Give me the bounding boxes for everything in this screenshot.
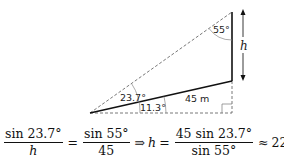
right-angle-marker	[222, 104, 232, 113]
side-length-label: 45 m	[185, 93, 209, 104]
rhs-numerator: sin 55°	[83, 127, 130, 143]
dashed-sightline	[90, 12, 232, 113]
lhs-denominator: h	[29, 143, 37, 158]
result-denominator: sin 55°	[192, 143, 237, 158]
result-numerator: 45 sin 23.7°	[175, 127, 253, 143]
lhs-numerator: sin 23.7°	[4, 127, 63, 143]
fraction-rhs: sin 55° 45	[83, 127, 130, 158]
formula: sin 23.7° h = sin 55° 45 ⇒ h = 45 sin 23…	[2, 124, 284, 160]
height-label: h	[240, 39, 248, 53]
angle-11-3-label: 11.3°	[140, 102, 166, 113]
variable-h: h	[148, 135, 156, 150]
triangle-diagram: h 55° 23.7° 11.3° 45 m	[0, 0, 284, 122]
result-value: 22.0809	[272, 135, 284, 150]
arrowhead-up-icon	[241, 9, 246, 15]
arrowhead-down-icon	[241, 75, 246, 81]
approx-sign: ≈	[258, 135, 268, 150]
fraction-result: 45 sin 23.7° sin 55°	[175, 127, 253, 158]
equals-sign: =	[68, 135, 78, 150]
equals-sign-2: =	[159, 135, 169, 150]
rhs-denominator: 45	[98, 143, 114, 158]
angle-55-label: 55°	[213, 24, 230, 35]
implies-sign: ⇒	[135, 135, 145, 150]
fraction-lhs: sin 23.7° h	[4, 127, 63, 158]
